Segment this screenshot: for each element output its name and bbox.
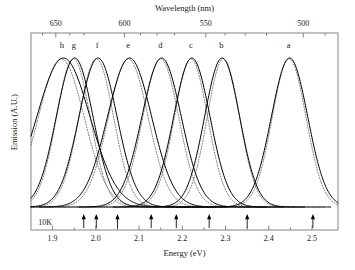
x-tick-label: 1.9 bbox=[48, 235, 58, 243]
peak-label-f: f bbox=[96, 41, 99, 50]
arrow-head bbox=[94, 214, 98, 219]
x-tick-label: 2.1 bbox=[134, 235, 144, 243]
peak-label-h: h bbox=[60, 41, 64, 50]
peak-label-c: c bbox=[189, 41, 193, 50]
x-tick-label: 2.2 bbox=[177, 235, 187, 243]
peak-label-g: g bbox=[72, 41, 76, 50]
peak-label-a: a bbox=[287, 41, 291, 50]
emission-curve-b bbox=[114, 58, 331, 207]
arrow-marker-6 bbox=[207, 214, 211, 228]
arrow-marker-1 bbox=[82, 214, 86, 228]
x-tick-label: 2.3 bbox=[221, 235, 231, 243]
arrow-head bbox=[207, 214, 211, 219]
plot-canvas bbox=[0, 0, 355, 270]
top-tick-label: 650 bbox=[50, 20, 62, 28]
arrow-head bbox=[174, 214, 178, 219]
arrow-head bbox=[245, 214, 249, 219]
peak-label-b: b bbox=[219, 41, 223, 50]
emission-curve-c bbox=[79, 58, 304, 207]
fit-curve-d-fit bbox=[49, 59, 272, 207]
emission-curves bbox=[31, 58, 338, 207]
axis-ticks bbox=[43, 33, 326, 230]
peak-label-e: e bbox=[126, 41, 130, 50]
arrow-head bbox=[115, 214, 119, 219]
arrow-marker-4 bbox=[149, 214, 153, 228]
arrow-marker-3 bbox=[115, 214, 119, 228]
emission-curve-d bbox=[40, 58, 284, 207]
peak-label-d: d bbox=[158, 41, 162, 50]
fit-curve-a-fit bbox=[185, 59, 338, 207]
x-tick-label: 2.4 bbox=[264, 235, 274, 243]
arrow-marker-2 bbox=[94, 214, 98, 228]
top-tick-label: 550 bbox=[200, 20, 212, 28]
emission-curve-g bbox=[31, 58, 189, 207]
x-tick-label: 2.0 bbox=[91, 235, 101, 243]
arrow-head bbox=[311, 214, 315, 219]
arrow-marker-7 bbox=[245, 214, 249, 228]
arrow-marker-5 bbox=[174, 214, 178, 228]
emission-spectra-figure: Emission (A.U.) Wavelength (nm) Energy (… bbox=[0, 0, 355, 270]
absorption-arrow-markers bbox=[82, 214, 315, 228]
arrow-head bbox=[149, 214, 153, 219]
x-tick-label: 2.5 bbox=[307, 235, 317, 243]
top-tick-label: 600 bbox=[119, 20, 131, 28]
emission-curve-e bbox=[31, 58, 266, 207]
arrow-head bbox=[82, 214, 86, 219]
top-tick-label: 500 bbox=[297, 20, 309, 28]
fit-curve-c-fit bbox=[88, 59, 294, 207]
arrow-marker-8 bbox=[311, 214, 315, 228]
